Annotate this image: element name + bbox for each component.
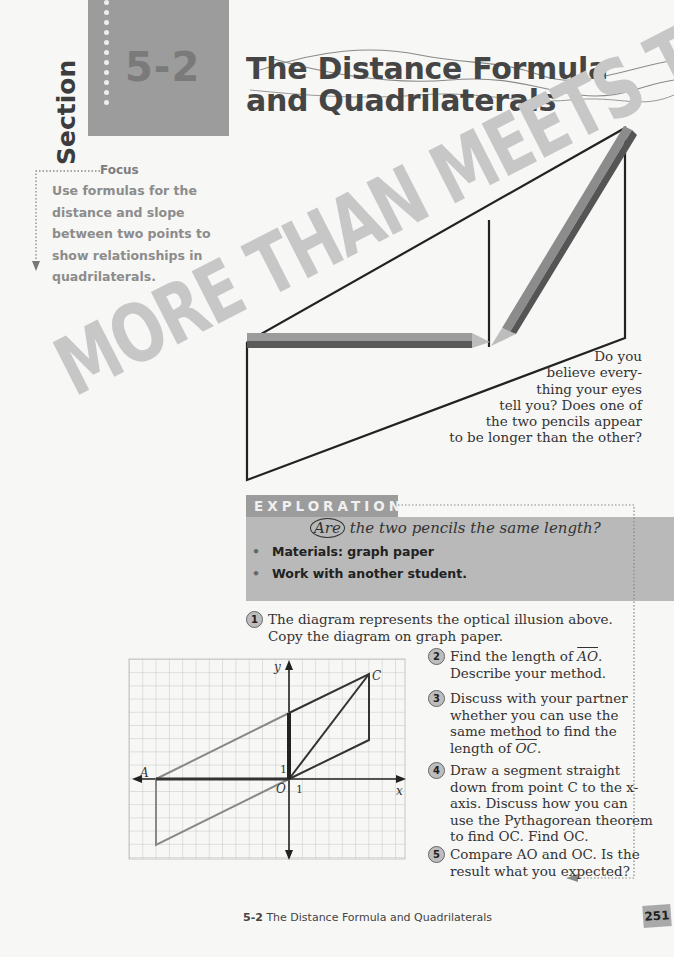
- svg-text:x: x: [396, 784, 403, 798]
- step-5: 5 Compare AO and OC. Is the result what …: [450, 846, 650, 879]
- svg-text:O: O: [276, 782, 286, 796]
- exploration-tab: EXPLORATION: [246, 495, 398, 517]
- focus-label: Focus: [100, 163, 139, 177]
- page-footer: 5-2 The Distance Formula and Quadrilater…: [243, 911, 492, 924]
- step-3: 3 Discuss with your partner whether you …: [450, 690, 650, 756]
- section-label: Section: [52, 60, 81, 165]
- svg-text:A: A: [139, 766, 149, 780]
- list-item: Work with another student.: [252, 563, 467, 585]
- svg-text:1: 1: [296, 783, 303, 796]
- svg-text:y: y: [273, 660, 281, 674]
- list-item: Materials: graph paper: [252, 541, 467, 563]
- step-2: 2 Find the length of AO. Describe your m…: [450, 648, 650, 681]
- section-number: 5-2: [125, 44, 200, 90]
- svg-text:C: C: [372, 669, 381, 683]
- pencil-diagonal: [502, 126, 632, 332]
- step-1: 1 The diagram represents the optical ill…: [268, 611, 623, 644]
- step-4: 4 Draw a segment straight down from poin…: [450, 762, 655, 845]
- pencil-horizontal: [247, 333, 472, 341]
- section-dots: [103, 0, 111, 110]
- illusion-question: Do you believe every- thing your eyes te…: [390, 348, 642, 446]
- exploration-question: Are the two pencils the same length?: [310, 519, 601, 537]
- coordinate-graph: A C O 1 1 x y: [126, 656, 408, 862]
- page-number: 251: [642, 904, 671, 928]
- svg-text:1: 1: [280, 763, 287, 776]
- materials-list: Materials: graph paper Work with another…: [252, 541, 467, 585]
